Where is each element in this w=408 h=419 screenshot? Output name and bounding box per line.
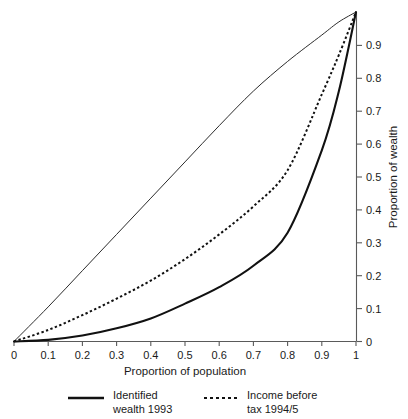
chart-legend: Identified wealth 1993 Income before tax…	[68, 389, 317, 415]
lorenz-curve-figure: 0 0.1 0.2 0.3 0.4 0.5 0.6 0.7 0.8 0.9 1 …	[0, 0, 408, 419]
legend-item-label-line1: Identified	[113, 389, 158, 401]
y-tick-label: 0.7	[366, 105, 381, 117]
x-axis-ticks	[14, 342, 356, 347]
identified-wealth-curve	[14, 12, 356, 342]
x-tick-label: 0	[11, 349, 17, 361]
y-tick-label: 0.8	[366, 72, 381, 84]
x-tick-label: 0.3	[109, 349, 124, 361]
y-tick-label: 0.2	[366, 270, 381, 282]
y-tick-label: 0.6	[366, 138, 381, 150]
x-tick-label: 0.9	[314, 349, 329, 361]
legend-item-label-line2: tax 1994/5	[247, 403, 298, 415]
x-axis-title: Proportion of population	[124, 365, 246, 377]
chart-canvas: 0 0.1 0.2 0.3 0.4 0.5 0.6 0.7 0.8 0.9 1 …	[0, 0, 408, 419]
income-before-tax-curve	[14, 12, 356, 342]
x-tick-label: 0.8	[280, 349, 295, 361]
equality-reference-curve	[14, 12, 356, 342]
legend-item-label-line1: Income before	[247, 389, 317, 401]
y-tick-labels: 0 0.1 0.2 0.3 0.4 0.5 0.6 0.7 0.8 0.9	[366, 39, 381, 347]
x-tick-label: 1	[353, 349, 359, 361]
y-tick-label: 0.4	[366, 204, 381, 216]
x-tick-labels: 0 0.1 0.2 0.3 0.4 0.5 0.6 0.7 0.8 0.9 1	[11, 349, 359, 361]
x-tick-label: 0.4	[143, 349, 158, 361]
y-tick-label: 0	[366, 336, 372, 348]
legend-item-label-line2: wealth 1993	[112, 403, 172, 415]
x-tick-label: 0.7	[246, 349, 261, 361]
y-axis-title: Proportion of wealth	[387, 126, 399, 228]
y-tick-label: 0.3	[366, 237, 381, 249]
y-tick-label: 0.5	[366, 171, 381, 183]
x-tick-label: 0.1	[41, 349, 56, 361]
y-tick-label: 0.9	[366, 39, 381, 51]
x-tick-label: 0.2	[75, 349, 90, 361]
y-axis-ticks	[357, 45, 363, 341]
x-tick-label: 0.6	[212, 349, 227, 361]
y-tick-label: 0.1	[366, 303, 381, 315]
x-tick-label: 0.5	[177, 349, 192, 361]
